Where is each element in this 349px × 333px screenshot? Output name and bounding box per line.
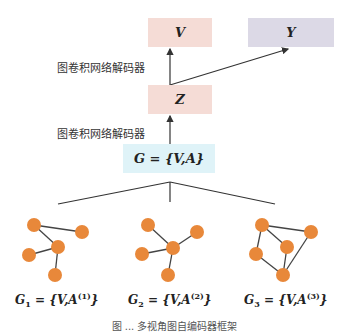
figure-caption: 图 ... 多视角图自编码器框架: [0, 318, 349, 333]
node-y: Y: [248, 18, 334, 47]
edge-label-z-to-v: 图卷积网络解码器: [57, 59, 145, 75]
view-formula-2: G2 = {V,A(2)}: [128, 291, 212, 309]
node-g: G = {V,A}: [123, 144, 215, 173]
view-formula-1: G1 = {V,A(1)}: [15, 291, 99, 309]
node-z-label: Z: [175, 92, 185, 107]
node-y-label: Y: [286, 25, 295, 40]
node-z: Z: [148, 85, 212, 114]
node-g-label: G = {V,A}: [134, 151, 204, 166]
node-v: V: [148, 18, 212, 47]
view-formula-3: G3 = {V,A(3)}: [244, 291, 328, 309]
edge-label-g-to-z: 图卷积网络解码器: [57, 125, 145, 141]
node-v-label: V: [175, 25, 185, 40]
